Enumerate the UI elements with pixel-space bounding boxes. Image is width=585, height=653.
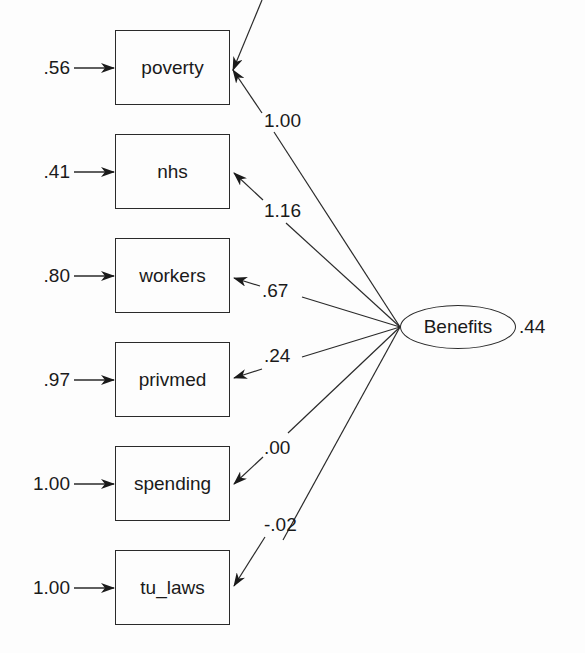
indicator-box-poverty: poverty bbox=[115, 30, 230, 105]
error-variance-nhs: .41 bbox=[0, 161, 70, 183]
indicator-box-workers: workers bbox=[115, 238, 230, 313]
loading-line-tu-laws bbox=[283, 327, 400, 540]
loading-label-workers: .67 bbox=[262, 280, 288, 302]
loading-line-spending bbox=[288, 327, 400, 433]
loading-label-nhs: 1.16 bbox=[264, 200, 301, 222]
error-variance-poverty: .56 bbox=[0, 57, 70, 79]
latent-factor-benefits: Benefits bbox=[400, 305, 516, 349]
indicator-box-tu-laws: tu_laws bbox=[115, 550, 230, 625]
error-variance-spending: 1.00 bbox=[0, 473, 70, 495]
error-variance-tu-laws: 1.00 bbox=[0, 577, 70, 599]
loading-label-poverty: 1.00 bbox=[264, 110, 301, 132]
indicator-box-privmed: privmed bbox=[115, 342, 230, 417]
indicator-box-nhs: nhs bbox=[115, 134, 230, 209]
indicator-box-spending: spending bbox=[115, 446, 230, 521]
loading-line-privmed bbox=[302, 327, 400, 357]
loading-label-spending: .00 bbox=[264, 437, 290, 459]
loading-label-tu-laws: -.02 bbox=[264, 514, 297, 536]
loading-label-privmed: .24 bbox=[264, 345, 290, 367]
error-variance-privmed: .97 bbox=[0, 369, 70, 391]
error-variance-workers: .80 bbox=[0, 265, 70, 287]
latent-variance: .44 bbox=[519, 316, 545, 338]
loading-line-workers bbox=[302, 297, 400, 327]
